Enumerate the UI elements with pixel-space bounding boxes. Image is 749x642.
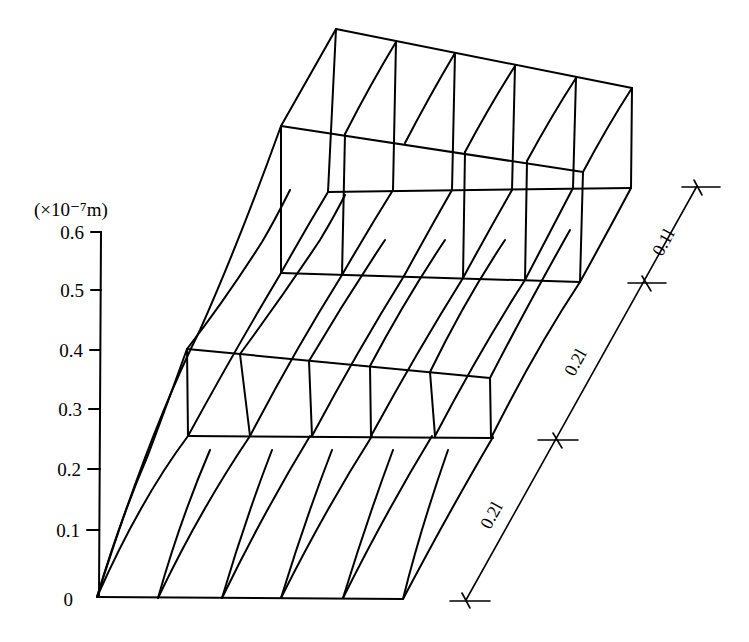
- z-tick-0-4: 0.4: [43, 341, 83, 360]
- z-tick-0: 0: [33, 590, 73, 609]
- lower-step: [187, 349, 493, 438]
- upper-step: [97, 29, 632, 597]
- z-tick-0-6: 0.6: [44, 223, 84, 242]
- wireframe-diagram: [0, 0, 749, 642]
- base-front-edge: [97, 597, 403, 599]
- z-tick-0-3: 0.3: [42, 400, 82, 419]
- z-tick-0-5: 0.5: [44, 281, 84, 300]
- z-tick-0-1: 0.1: [40, 521, 80, 540]
- z-axis-unit-label: (×10⁻⁷m): [34, 200, 108, 219]
- z-axis: [87, 232, 101, 597]
- z-tick-0-2: 0.2: [41, 460, 81, 479]
- lower-section-lines: [97, 349, 493, 599]
